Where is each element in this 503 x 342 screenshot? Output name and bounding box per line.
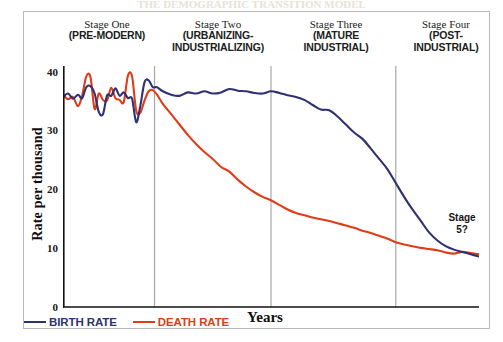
stage-two-descriptor: (URBANIZING-INDUSTRIALIZING) <box>163 30 273 54</box>
stage-five-annotation: Stage 5? <box>440 212 484 235</box>
legend-item-birth-rate: BIRTH RATE <box>24 316 117 328</box>
legend-item-death-rate: DEATH RATE <box>133 316 229 328</box>
y-tick-label-40: 40 <box>36 66 58 78</box>
death-rate-line-swatch <box>133 321 155 323</box>
figure-title-cropped: THE DEMOGRAPHIC TRANSITION MODEL <box>0 0 503 9</box>
birth-rate-line-swatch <box>24 321 46 323</box>
stage-header-two: Stage Two (URBANIZING-INDUSTRIALIZING) <box>163 18 273 54</box>
stage-five-line2: 5? <box>440 224 484 236</box>
chart-legend: BIRTH RATE DEATH RATE <box>24 313 245 331</box>
stage-header-three: Stage Three (MATURE INDUSTRIAL) <box>288 18 384 54</box>
stage-five-line1: Stage <box>440 212 484 224</box>
chart-canvas <box>63 66 479 308</box>
stage-divider-lines <box>155 66 396 307</box>
stage-three-descriptor: (MATURE INDUSTRIAL) <box>288 30 384 54</box>
y-axis-title: Rate per thousand <box>30 84 46 284</box>
plot-area <box>63 66 479 308</box>
y-tick-label-0: 0 <box>36 301 58 313</box>
demographic-transition-figure: THE DEMOGRAPHIC TRANSITION MODEL Stage O… <box>0 0 503 342</box>
stage-one-descriptor: (PRE-MODERN) <box>61 30 153 42</box>
legend-label-birth-rate: BIRTH RATE <box>49 316 117 328</box>
stage-four-descriptor: (POST-INDUSTRIAL) <box>404 30 488 54</box>
stage-header-one: Stage One (PRE-MODERN) <box>61 18 153 42</box>
stage-header-four: Stage Four (POST-INDUSTRIAL) <box>404 18 488 54</box>
legend-label-death-rate: DEATH RATE <box>158 316 229 328</box>
